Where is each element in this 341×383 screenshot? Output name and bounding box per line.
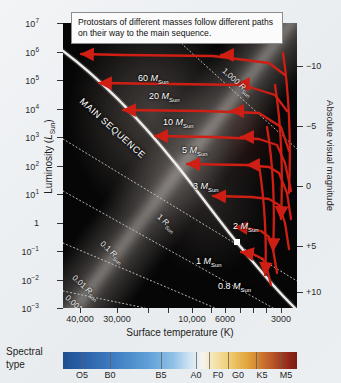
spectral-type-o5: O5 bbox=[76, 370, 88, 380]
y-tick-label-5: 102 bbox=[25, 160, 39, 172]
right-axis-label: Absolute visual magnitude bbox=[325, 81, 336, 231]
x-tick-label-4: 10,000 bbox=[178, 314, 206, 324]
x-axis-label: Surface temperature (K) bbox=[63, 327, 297, 338]
spectral-type-a0: A0 bbox=[190, 370, 201, 380]
hayashi-trunk-b bbox=[275, 85, 282, 219]
spectral-type-g0: G0 bbox=[232, 370, 244, 380]
y-tick-label-7: 1 bbox=[34, 218, 39, 228]
spectral-color-bar bbox=[63, 352, 297, 369]
y-tick-label-0: 107 bbox=[25, 17, 39, 29]
y-tick-label-6: 101 bbox=[25, 188, 39, 200]
y-axis-symbol: L bbox=[43, 134, 54, 140]
right-tick-label-4: +10 bbox=[306, 287, 321, 297]
track-60-msun bbox=[81, 54, 285, 75]
x-tick-label-0: 40,000 bbox=[66, 314, 94, 324]
spectral-separator bbox=[281, 352, 282, 369]
x-tick-mark bbox=[225, 308, 226, 313]
y-tick-label-8: 10−1 bbox=[22, 245, 39, 257]
spectral-title-line2: type bbox=[6, 359, 25, 370]
right-tick-mark bbox=[297, 126, 303, 127]
x-tick-mark bbox=[80, 308, 81, 313]
spectral-type-b0: B0 bbox=[104, 370, 115, 380]
y-axis-symbol-sub: Sun bbox=[49, 123, 56, 135]
right-tick-label-0: −10 bbox=[306, 61, 321, 71]
x-tick-mark bbox=[253, 308, 254, 313]
spectral-type-k5: K5 bbox=[256, 370, 267, 380]
x-tick-mark bbox=[192, 308, 193, 313]
right-tick-mark bbox=[297, 186, 303, 187]
spectral-type-b5: B5 bbox=[155, 370, 166, 380]
spectral-title-line1: Spectral bbox=[6, 346, 43, 357]
x-tick-label-6: 6000 bbox=[215, 314, 235, 324]
x-tick-mark bbox=[266, 308, 267, 313]
y-axis-label: Luminosity (LSun) bbox=[43, 82, 56, 232]
x-tick-mark bbox=[281, 308, 282, 313]
right-tick-label-2: 0 bbox=[306, 181, 311, 191]
spectral-separator bbox=[209, 352, 210, 369]
spectral-separator bbox=[196, 352, 197, 369]
x-tick-mark bbox=[117, 308, 118, 313]
x-tick-label-1: 30,000 bbox=[103, 314, 131, 324]
hr-diagram-figure: Luminosity (LSun) 1071061051041031021011… bbox=[0, 0, 341, 383]
right-tick-mark bbox=[297, 246, 303, 247]
x-tick-label-10: 3000 bbox=[271, 314, 291, 324]
track-3-msun bbox=[187, 164, 291, 219]
spectral-separator bbox=[228, 352, 229, 369]
spectral-separator bbox=[110, 352, 111, 369]
caption-box: Protostars of different masses follow di… bbox=[71, 12, 283, 44]
sun-marker bbox=[234, 239, 240, 245]
y-tick-mark bbox=[57, 308, 63, 309]
spectral-separator bbox=[161, 352, 162, 369]
y-tick-label-9: 10−2 bbox=[22, 274, 39, 286]
y-tick-label-1: 106 bbox=[25, 46, 39, 58]
y-tick-label-10: 10−3 bbox=[22, 302, 39, 314]
x-tick-mark bbox=[148, 308, 149, 313]
spectral-type-f0: F0 bbox=[213, 370, 224, 380]
x-tick-mark bbox=[168, 308, 169, 313]
y-tick-label-4: 103 bbox=[25, 131, 39, 143]
x-tick-mark bbox=[240, 308, 241, 313]
spectral-separator bbox=[82, 352, 83, 369]
radius-isoline-0-001 bbox=[63, 291, 145, 308]
right-tick-label-3: +5 bbox=[306, 241, 316, 251]
spectral-type-title: Spectral type bbox=[6, 346, 64, 371]
right-tick-mark bbox=[297, 66, 303, 67]
hayashi-trunk-c bbox=[267, 127, 274, 251]
spectral-type-m5: M5 bbox=[280, 370, 293, 380]
plot-vectors bbox=[63, 23, 297, 308]
y-axis-label-suffix: ) bbox=[43, 119, 54, 122]
x-tick-mark bbox=[211, 308, 212, 313]
right-tick-mark bbox=[297, 292, 303, 293]
y-tick-label-2: 105 bbox=[25, 74, 39, 86]
plot-area: MAIN SEQUENCE 60 MSun20 MSun10 MSun5 MSu… bbox=[63, 23, 297, 308]
y-axis-label-text: Luminosity ( bbox=[43, 140, 54, 194]
radius-isoline-0-01 bbox=[63, 243, 215, 308]
spectral-separator bbox=[256, 352, 257, 369]
right-tick-label-1: −5 bbox=[306, 121, 316, 131]
y-tick-label-3: 104 bbox=[25, 103, 39, 115]
